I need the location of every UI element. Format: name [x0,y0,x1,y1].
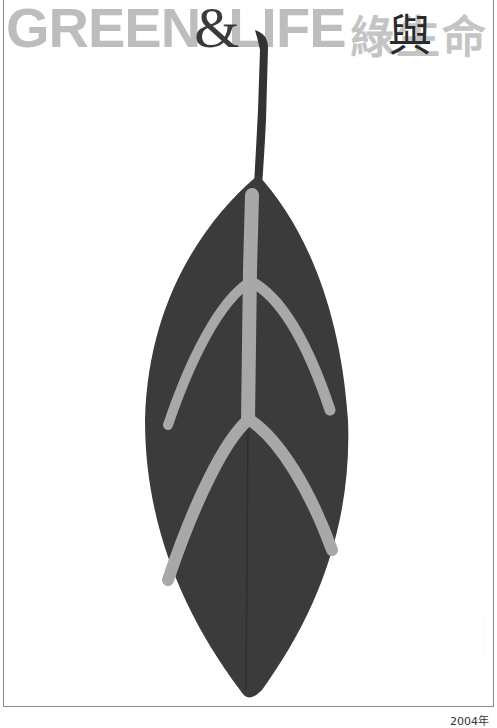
leaf-stem [254,30,268,185]
side-note: ··· ······ ······· [479,618,485,678]
year-label: 2004年 [450,712,489,728]
leaf-image [0,0,497,728]
